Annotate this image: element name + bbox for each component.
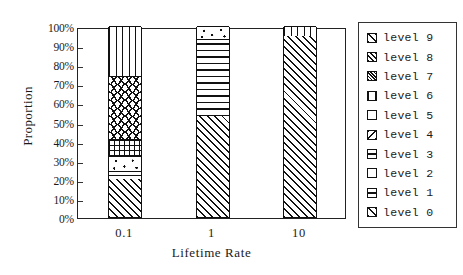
legend-label: level 8 [383, 51, 433, 64]
bar-segment-0.1-level2 [109, 156, 141, 171]
bar-segment-1-level0 [197, 116, 229, 217]
bar-segment-0.1-level6 [109, 26, 141, 76]
bar-10 [283, 27, 317, 218]
y-tick-label: 70% [28, 80, 74, 91]
legend-swatch-icon [367, 149, 377, 159]
legend-label: level 2 [383, 167, 433, 180]
legend-label: level 5 [383, 109, 433, 122]
y-tick-mark [78, 105, 83, 106]
bar-segment-0.1-level4 [109, 76, 141, 139]
legend-swatch-icon [367, 91, 377, 101]
legend-item-level-4[interactable]: level 4 [359, 125, 456, 144]
legend-item-level-1[interactable]: level 1 [359, 183, 456, 202]
y-tick-label: 90% [28, 42, 74, 53]
x-tick-label: 0.1 [94, 226, 154, 241]
bar-segment-0.1-level0 [109, 179, 141, 217]
chart-figure: Proportion 0%10%20%30%40%50%60%70%80%90%… [0, 0, 463, 275]
legend-swatch-icon [367, 207, 377, 217]
legend-label: level 6 [383, 89, 433, 102]
legend-label: level 1 [383, 186, 433, 199]
y-tick-label: 10% [28, 195, 74, 206]
y-tick-label: 40% [28, 138, 74, 149]
y-tick-mark [78, 163, 83, 164]
legend-item-level-2[interactable]: level 2 [359, 164, 456, 183]
y-tick-label: 20% [28, 176, 74, 187]
bar-segment-1-level2 [197, 26, 229, 39]
legend-swatch-icon [367, 110, 377, 120]
y-tick-label: 0% [28, 214, 74, 225]
legend-swatch-icon [367, 188, 377, 198]
legend-item-level-7[interactable]: level 7 [359, 67, 456, 86]
bar-segment-1-level5 [197, 39, 229, 115]
plot-area [77, 28, 346, 219]
y-tick-label: 30% [28, 157, 74, 168]
y-tick-mark [78, 125, 83, 126]
y-tick-label: 100% [28, 23, 74, 34]
y-tick-label: 80% [28, 61, 74, 72]
legend-swatch-icon [367, 130, 377, 140]
y-tick-mark [78, 144, 83, 145]
x-axis-title: Lifetime Rate [77, 245, 346, 261]
legend-label: level 0 [383, 206, 433, 219]
y-tick-label: 60% [28, 99, 74, 110]
legend-item-level-0[interactable]: level 0 [359, 203, 456, 222]
legend-item-level-5[interactable]: level 5 [359, 106, 456, 125]
bar-1 [196, 27, 230, 218]
bar-segment-0.1-level3 [109, 139, 141, 156]
x-tick-label: 1 [182, 226, 242, 241]
legend-item-level-9[interactable]: level 9 [359, 28, 456, 47]
y-tick-mark [78, 86, 83, 87]
y-tick-mark [78, 201, 83, 202]
y-tick-label: 50% [28, 119, 74, 130]
legend-label: level 3 [383, 148, 433, 161]
legend-item-level-3[interactable]: level 3 [359, 144, 456, 163]
legend-swatch-icon [367, 168, 377, 178]
legend-label: level 9 [383, 31, 433, 44]
bar-segment-0.1-level1 [109, 171, 141, 179]
bar-0.1 [108, 27, 142, 218]
legend-label: level 7 [383, 70, 433, 83]
legend-item-level-6[interactable]: level 6 [359, 86, 456, 105]
legend-swatch-icon [367, 71, 377, 81]
x-tick-label: 10 [269, 226, 329, 241]
legend-item-level-8[interactable]: level 8 [359, 47, 456, 66]
y-tick-mark [78, 48, 83, 49]
legend-swatch-icon [367, 52, 377, 62]
legend-swatch-icon [367, 33, 377, 43]
legend-label: level 4 [383, 128, 433, 141]
x-axis-tick-labels: 0.1110 [77, 226, 346, 244]
bar-segment-10-level0 [284, 36, 316, 217]
y-tick-mark [78, 67, 83, 68]
y-axis-tick-labels: 0%10%20%30%40%50%60%70%80%90%100% [28, 22, 74, 224]
y-tick-mark [78, 182, 83, 183]
bar-segment-10-level6 [284, 26, 316, 36]
legend: level 9level 8level 7level 6level 5level… [358, 22, 457, 228]
